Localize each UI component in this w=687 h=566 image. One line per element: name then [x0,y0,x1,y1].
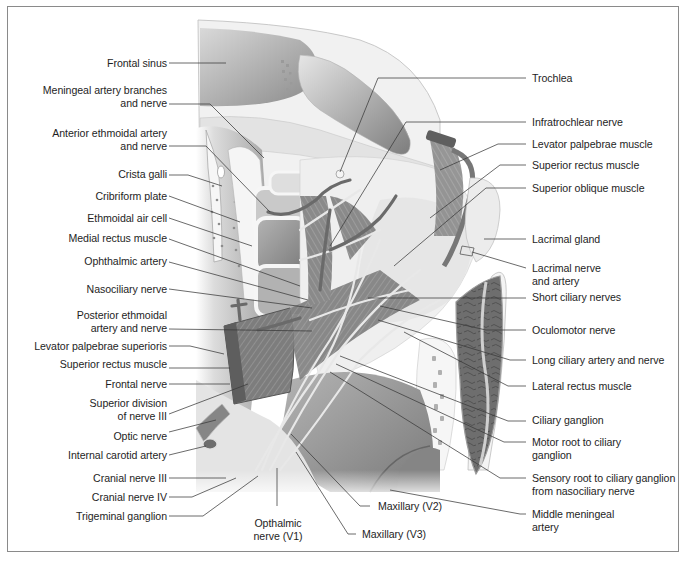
label-text: Superior rectus muscle [60,358,167,370]
label-superior-rectus-muscle-right: Superior rectus muscle [532,159,639,172]
label-superior-oblique-muscle: Superior oblique muscle [532,182,645,195]
label-text: Nasociliary nerve [87,283,167,295]
label-text: Cribriform plate [95,190,167,202]
label-text: Cranial nerve IV [92,491,167,503]
label-ethmoidal-air-cell: Ethmoidal air cell [87,212,167,225]
label-text: Motor root to ciliary [532,436,621,449]
label-text: Meningeal artery branches [43,84,167,97]
label-oculomotor-nerve: Oculomotor nerve [532,324,615,337]
label-text: artery and nerve [77,322,167,335]
label-text: Posterior ethmoidal [77,309,167,322]
label-text: Lacrimal gland [532,233,600,245]
label-lateral-rectus-muscle: Lateral rectus muscle [532,380,632,393]
label-short-ciliary-nerves: Short ciliary nerves [532,291,621,304]
label-text: Sensory root to ciliary ganglion [532,472,675,485]
label-text: Trochlea [532,72,572,84]
label-lacrimal-gland: Lacrimal gland [532,233,600,246]
label-opthalmic-nerve-v1: Opthalmic nerve (V1) [248,517,308,543]
label-text: Ophthalmic artery [84,255,167,267]
label-text: Lateral rectus muscle [532,380,632,392]
label-text: and artery [532,275,601,288]
label-infratrochlear-nerve: Infratrochlear nerve [532,116,623,129]
label-text: Superior rectus muscle [532,159,639,171]
label-text: Infratrochlear nerve [532,116,623,128]
label-levator-palpebrae-muscle: Levator palpebrae muscle [532,138,653,151]
label-maxillary-v3: Maxillary (V3) [362,528,426,541]
label-text: Opthalmic [248,517,308,530]
label-anterior-ethmoidal-artery: Anterior ethmoidal artery and nerve [52,127,167,153]
label-text: Medial rectus muscle [69,232,168,244]
label-text: artery [532,521,614,534]
label-trochlea: Trochlea [532,72,572,85]
label-optic-nerve: Optic nerve [113,430,167,443]
label-superior-rectus-muscle-left: Superior rectus muscle [60,358,167,371]
label-ophthalmic-artery: Ophthalmic artery [84,255,167,268]
label-long-ciliary-artery-nerve: Long ciliary artery and nerve [532,354,664,367]
label-text: Oculomotor nerve [532,324,615,336]
label-cribriform-plate: Cribriform plate [95,190,167,203]
label-trigeminal-ganglion: Trigeminal ganglion [76,510,167,523]
label-text: Maxillary (V2) [378,500,442,512]
label-text: Trigeminal ganglion [76,510,167,522]
label-superior-division-nerve-iii: Superior division of nerve III [90,397,167,423]
label-meningeal-artery-branches: Meningeal artery branches and nerve [43,84,167,110]
label-text: and nerve [52,140,167,153]
label-crista-galli: Crista galli [118,168,167,181]
label-text: Maxillary (V3) [362,528,426,540]
label-cranial-nerve-iv: Cranial nerve IV [92,491,167,504]
label-text: of nerve III [90,410,167,423]
label-maxillary-v2: Maxillary (V2) [378,500,442,513]
label-posterior-ethmoidal-artery: Posterior ethmoidal artery and nerve [77,309,167,335]
label-text: Short ciliary nerves [532,291,621,303]
label-sensory-root-ciliary-ganglion: Sensory root to ciliary ganglion from na… [532,472,675,498]
label-text: Levator palpebrae superioris [34,340,167,352]
label-internal-carotid-artery: Internal carotid artery [68,449,167,462]
label-text: Superior division [90,397,167,410]
label-text: and nerve [43,97,167,110]
label-text: Superior oblique muscle [532,182,645,194]
label-text: Frontal sinus [107,57,167,69]
label-text: from nasociliary nerve [532,485,675,498]
label-text: Ethmoidal air cell [87,212,167,224]
label-text: Ciliary ganglion [532,414,604,426]
label-lacrimal-nerve-artery: Lacrimal nerve and artery [532,262,601,288]
label-text: Lacrimal nerve [532,262,601,275]
label-medial-rectus-muscle: Medial rectus muscle [69,232,168,245]
label-text: Crista galli [118,168,167,180]
label-frontal-nerve: Frontal nerve [105,378,167,391]
label-text: Cranial nerve III [93,472,167,484]
label-text: Levator palpebrae muscle [532,138,653,150]
label-text: Anterior ethmoidal artery [52,127,167,140]
label-text: Long ciliary artery and nerve [532,354,664,366]
label-middle-meningeal-artery: Middle meningeal artery [532,508,614,534]
label-cranial-nerve-iii: Cranial nerve III [93,472,167,485]
label-text: Middle meningeal [532,508,614,521]
label-text: Internal carotid artery [68,449,167,461]
label-motor-root-ciliary-ganglion: Motor root to ciliary ganglion [532,436,621,462]
label-text: ganglion [532,449,621,462]
label-nasociliary-nerve: Nasociliary nerve [87,283,167,296]
label-frontal-sinus: Frontal sinus [107,57,167,70]
label-ciliary-ganglion: Ciliary ganglion [532,414,604,427]
label-text: nerve (V1) [248,530,308,543]
label-levator-palpebrae-superioris: Levator palpebrae superioris [34,340,167,353]
label-text: Frontal nerve [105,378,167,390]
label-text: Optic nerve [113,430,167,442]
